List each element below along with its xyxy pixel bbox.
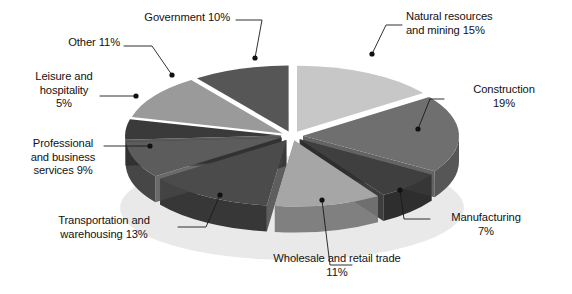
label-other: Other 11% [18,36,120,50]
dot-natural [369,51,374,56]
pie-slices-generated [125,66,459,233]
label-wholesale-and-retail-trade: Wholesale and retail trade 11% [248,252,426,279]
leader-government [236,20,262,58]
label-manufacturing: Manufacturing 7% [420,211,552,238]
dot-other [169,72,174,77]
label-leisure-and-hospitality: Leisure and hospitality 5% [8,70,120,111]
dot-government [252,55,257,60]
label-professional-and-business-services: Professional and business services 9% [4,137,122,178]
leader-other [124,46,172,75]
label-government: Government 10% [106,11,230,25]
dot-transportation [217,192,222,197]
dot-wholesale [319,197,324,202]
pie-chart: Government 10% Other 11% Leisure and hos… [0,0,572,294]
dot-construction [415,126,420,131]
dot-professional [147,143,152,148]
label-natural-resources-and-mining: Natural resources and mining 15% [406,10,556,37]
label-construction: Construction 19% [446,83,562,110]
dot-manufacturing [397,187,402,192]
leader-natural [372,25,402,54]
label-transportation-and-warehousing: Transportation and warehousing 13% [22,214,186,241]
dot-leisure [133,93,138,98]
